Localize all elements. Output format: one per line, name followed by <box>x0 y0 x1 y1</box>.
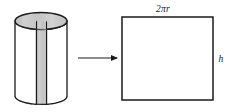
cylinder-right-shell <box>47 21 68 104</box>
rectangle-width-label: 2πr <box>156 4 170 14</box>
cylinder-group <box>15 13 67 105</box>
diagram-canvas: 2πr h <box>0 0 235 112</box>
cylinder-left-shell <box>15 21 37 104</box>
unrolled-rectangle <box>122 17 213 100</box>
cylinder-cut-band <box>37 29 47 104</box>
label-radius-r: r <box>166 4 170 14</box>
cylinder-top-notch <box>37 21 47 29</box>
rectangle-height-label: h <box>219 54 224 64</box>
cylinder-unroll-diagram: 2πr h <box>0 0 235 112</box>
